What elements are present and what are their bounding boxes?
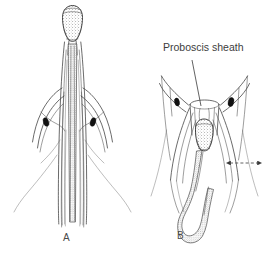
proboscis-sheath-leader xyxy=(192,60,201,106)
labrum-bulb-b xyxy=(196,119,214,151)
anatomy-illustration xyxy=(0,0,279,263)
palp-spot-a-left xyxy=(42,117,50,127)
palp-spot-a-right xyxy=(89,117,97,127)
figure-container: Proboscis sheath A B xyxy=(0,0,279,263)
labrum-bulb-a xyxy=(63,6,83,42)
fascicle-upper-b xyxy=(199,109,209,120)
panel-a-drawing xyxy=(14,6,131,228)
fascicle-shaft-a xyxy=(68,44,77,222)
palp-spot-b-left xyxy=(174,98,180,107)
panel-label-a: A xyxy=(63,232,70,243)
panel-label-b: B xyxy=(177,230,184,241)
proboscis-sheath-label: Proboscis sheath xyxy=(163,41,244,53)
panel-b-drawing xyxy=(151,60,258,243)
